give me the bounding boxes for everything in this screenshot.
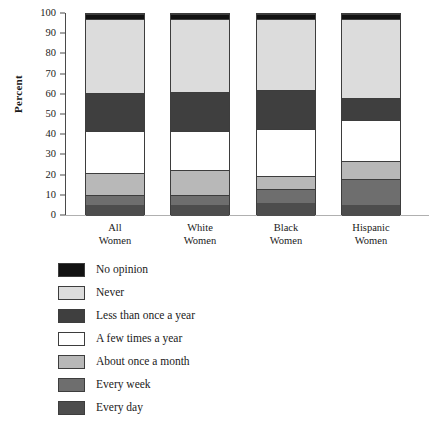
x-category-label: AllWomen [69, 221, 161, 247]
y-tick-label: 50 [22, 109, 56, 120]
legend-swatch [58, 286, 85, 300]
bar-segment-every-week[interactable] [342, 179, 400, 205]
bar-segment-every-week[interactable] [86, 195, 144, 205]
x-category-label: HispanicWomen [325, 221, 417, 247]
y-tick-label: 80 [22, 48, 56, 59]
bar-segment-never[interactable] [257, 19, 315, 90]
legend-item[interactable]: Every week [58, 373, 388, 396]
bar-white-women[interactable] [170, 13, 230, 215]
bar-segment-every-day[interactable] [257, 203, 315, 216]
y-tick-label: 20 [22, 169, 56, 180]
y-tick-label: 90 [22, 28, 56, 39]
y-tick-label: 0 [22, 210, 56, 221]
legend-item[interactable]: Never [58, 281, 388, 304]
x-category-line: Women [325, 234, 417, 247]
bar-segment-every-week[interactable] [257, 189, 315, 203]
bar-segment-no-opinion[interactable] [86, 14, 144, 19]
legend-swatch [58, 263, 85, 277]
x-category-line: Women [69, 234, 161, 247]
legend-label: Never [96, 287, 124, 299]
x-category-line: All [69, 221, 161, 234]
y-tick-mark [60, 134, 65, 135]
bar-segment-every-day[interactable] [342, 205, 400, 216]
legend-label: Every week [96, 379, 151, 391]
y-tick-mark [60, 33, 65, 34]
legend-swatch [58, 355, 85, 369]
x-category-line: Women [154, 234, 246, 247]
legend-item[interactable]: No opinion [58, 258, 388, 281]
bar-segment-never[interactable] [171, 19, 229, 92]
y-tick-label: 70 [22, 68, 56, 79]
y-axis-line [65, 13, 66, 215]
legend-label: No opinion [96, 264, 148, 276]
x-category-line: Hispanic [325, 221, 417, 234]
bar-segment-a-few-times-a-year[interactable] [257, 129, 315, 175]
bar-segment-less-than-once-a-year[interactable] [171, 92, 229, 131]
bar-segment-about-once-a-month[interactable] [171, 170, 229, 195]
legend-label: A few times a year [96, 333, 182, 345]
bar-segment-about-once-a-month[interactable] [257, 176, 315, 189]
y-tick-label: 40 [22, 129, 56, 140]
y-tick-mark [60, 194, 65, 195]
legend-label: Less than once a year [96, 310, 195, 322]
legend-swatch [58, 309, 85, 323]
bar-segment-a-few-times-a-year[interactable] [86, 131, 144, 172]
y-tick-label: 10 [22, 190, 56, 201]
y-tick-label: 100 [22, 8, 56, 19]
bar-segment-never[interactable] [86, 19, 144, 93]
legend-swatch [58, 401, 85, 415]
bar-segment-never[interactable] [342, 19, 400, 98]
bar-segment-about-once-a-month[interactable] [86, 173, 144, 195]
y-tick-label: 60 [22, 89, 56, 100]
bar-segment-every-week[interactable] [171, 195, 229, 205]
legend-item[interactable]: Less than once a year [58, 304, 388, 327]
bar-segment-less-than-once-a-year[interactable] [86, 93, 144, 131]
legend-item[interactable]: A few times a year [58, 327, 388, 350]
x-category-line: White [154, 221, 246, 234]
legend-label: About once a month [96, 356, 190, 368]
bar-hispanic-women[interactable] [341, 13, 401, 215]
stacked-bar-chart: Percent 0102030405060708090100 AllWomenW… [0, 0, 441, 435]
y-tick-mark [60, 93, 65, 94]
y-tick-label: 30 [22, 149, 56, 160]
bar-segment-every-day[interactable] [171, 205, 229, 216]
bar-segment-less-than-once-a-year[interactable] [342, 98, 400, 120]
x-category-line: Women [240, 234, 332, 247]
y-axis-tick-labels: 0102030405060708090100 [22, 0, 56, 250]
bar-segment-no-opinion[interactable] [257, 14, 315, 19]
bar-segment-no-opinion[interactable] [342, 14, 400, 19]
y-tick-mark [60, 154, 65, 155]
bar-segment-less-than-once-a-year[interactable] [257, 90, 315, 129]
bar-black-women[interactable] [256, 13, 316, 215]
legend-swatch [58, 332, 85, 346]
legend-item[interactable]: About once a month [58, 350, 388, 373]
x-category-line: Black [240, 221, 332, 234]
x-category-label: BlackWomen [240, 221, 332, 247]
y-tick-mark [60, 114, 65, 115]
chart-legend: No opinionNeverLess than once a yearA fe… [58, 258, 388, 419]
bar-segment-no-opinion[interactable] [171, 14, 229, 19]
y-tick-mark [60, 53, 65, 54]
plot-area: Percent 0102030405060708090100 AllWomenW… [0, 0, 441, 250]
legend-item[interactable]: Every day [58, 396, 388, 419]
y-tick-mark [60, 73, 65, 74]
bar-segment-about-once-a-month[interactable] [342, 161, 400, 178]
y-tick-mark [60, 174, 65, 175]
bar-all-women[interactable] [85, 13, 145, 215]
bar-segment-a-few-times-a-year[interactable] [171, 131, 229, 169]
bar-segment-a-few-times-a-year[interactable] [342, 120, 400, 161]
y-tick-mark [60, 13, 65, 14]
legend-swatch [58, 378, 85, 392]
y-tick-mark [60, 215, 65, 216]
bar-segment-every-day[interactable] [86, 205, 144, 216]
x-category-label: WhiteWomen [154, 221, 246, 247]
legend-label: Every day [96, 402, 143, 414]
